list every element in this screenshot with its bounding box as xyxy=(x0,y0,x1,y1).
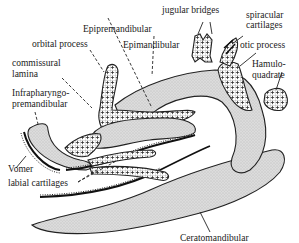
label-ceratomandibular: Ceratomandibular xyxy=(180,233,249,243)
lower-jaw-tooth-edge xyxy=(160,146,210,170)
label-spiracular-2: cartilages xyxy=(246,20,283,30)
labial-cartilage-upper xyxy=(88,150,156,166)
leader-orbital xyxy=(90,50,104,72)
label-infrapharyngo-1: Infrapharyngo- xyxy=(12,88,70,98)
leader-infrapharyngo xyxy=(35,112,38,124)
label-hamulo-1: Hamulo- xyxy=(252,59,286,69)
label-jugular-bridges: jugular bridges xyxy=(161,5,220,15)
label-commissural-1: commissural xyxy=(12,58,61,68)
jugular-bridges xyxy=(192,34,212,62)
label-commissural-2: lamina xyxy=(12,69,39,79)
jaw-cartilage-diagram: jugular bridges spiracular cartilages Ep… xyxy=(0,0,299,243)
label-hamulo-2: quadrate xyxy=(252,70,285,80)
label-labial-cartilages: labial cartilages xyxy=(8,178,68,188)
leader-ceratomandibular xyxy=(200,212,210,232)
label-spiracular-1: spiracular xyxy=(246,10,284,20)
label-orbital-process: orbital process xyxy=(32,39,88,49)
label-epimandibular: Epimandibular xyxy=(123,40,180,50)
hamuloquadrate xyxy=(264,88,287,110)
diagram-canvas: jugular bridges spiracular cartilages Ep… xyxy=(0,0,299,243)
label-epipremandibular: Epipremandibular xyxy=(83,24,152,34)
leader-jugular xyxy=(198,22,212,34)
label-otic-process: otic process xyxy=(240,40,285,50)
label-vomer: Vomer xyxy=(8,164,34,174)
commissural-lamina xyxy=(65,134,101,157)
label-infrapharyngo-2: premandibular xyxy=(12,99,68,109)
